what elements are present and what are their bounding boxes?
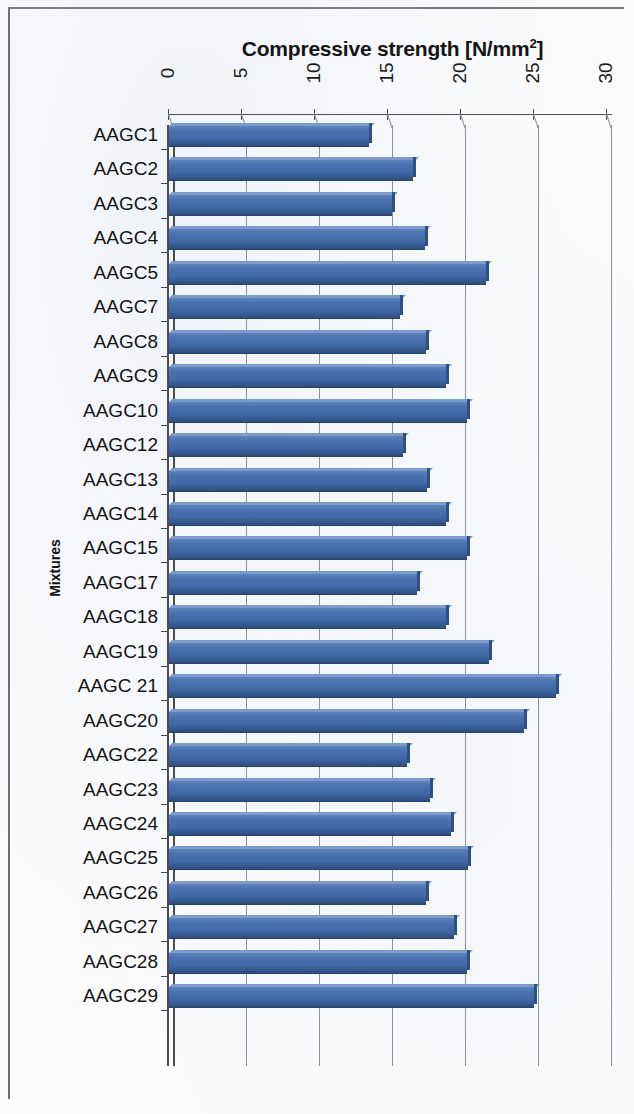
x-axis-tick-label: 5 [230,51,252,95]
category-label: AAGC15 [83,538,158,558]
x-gridline [611,125,612,1066]
bar [169,884,426,904]
y-axis-tick [161,872,169,873]
category-label-layer: AAGC1AAGC2AAGC3AAGC4AAGC5AAGC7AAGC8AAGC9… [0,114,166,1066]
y-axis-tick [161,907,169,908]
category-label: AAGC22 [83,745,158,765]
bar [169,712,524,732]
y-axis-tick [161,183,169,184]
y-axis-tick [161,666,169,667]
x-axis-tick-label: 10 [303,51,325,95]
category-label: AAGC23 [83,780,158,800]
category-label: AAGC14 [83,504,158,524]
category-label: AAGC20 [83,711,158,731]
bar [169,918,454,938]
x-axis-tick-label: 15 [376,51,398,95]
category-label: AAGC29 [83,986,158,1006]
category-label: AAGC12 [83,435,158,455]
bar [169,195,392,215]
category-label: AAGC1 [94,125,158,145]
category-label: AAGC24 [83,814,158,834]
y-axis-tick [161,149,169,150]
bar [169,367,446,387]
bar [169,539,467,559]
category-label: AAGC2 [94,159,158,179]
category-label: AAGC19 [83,642,158,662]
category-label: AAGC28 [83,952,158,972]
y-axis-tick [161,218,169,219]
bar [169,264,486,284]
y-axis-tick [161,597,169,598]
y-axis-tick [161,700,169,701]
category-label: AAGC18 [83,607,158,627]
bar [169,849,468,869]
y-axis-tick [161,804,169,805]
bar [169,471,427,491]
x-axis-tick-label: 25 [522,51,544,95]
y-axis-tick [161,494,169,495]
bar [169,160,413,180]
x-gridline [538,125,539,1066]
category-label: AAGC9 [94,366,158,386]
y-axis-tick [161,252,169,253]
x-axis-tick-label: 0 [157,51,179,95]
category-label: AAGC10 [83,401,158,421]
y-axis-tick [161,287,169,288]
y-axis-tick [161,528,169,529]
y-axis-tick [161,735,169,736]
x-axis-tick-label: 20 [449,51,471,95]
bar [169,643,489,663]
category-label: AAGC3 [94,194,158,214]
y-axis-tick [161,631,169,632]
category-label: AAGC7 [94,297,158,317]
chart-page: Compressive strength [N/mm2] 05101520253… [0,0,634,1114]
bar [169,436,403,456]
category-label: AAGC27 [83,917,158,937]
bar [169,815,451,835]
y-axis-tick [161,838,169,839]
y-axis-tick [161,941,169,942]
y-axis-tick [161,321,169,322]
x-axis-tick-labels: 051015202530 [0,0,634,110]
bar [169,574,417,594]
y-axis-tick [161,390,169,391]
bar [169,229,425,249]
category-label: AAGC5 [94,263,158,283]
bar [169,126,369,146]
y-axis-tick [161,769,169,770]
bar [169,987,534,1007]
y-axis-tick [161,1010,169,1011]
bar [169,608,446,628]
category-label: AAGC13 [83,470,158,490]
plot-area [168,114,612,1066]
y-axis-tick [161,459,169,460]
x-axis-line [168,114,612,115]
category-label: AAGC25 [83,848,158,868]
category-label: AAGC17 [83,573,158,593]
y-axis-tick [161,425,169,426]
y-axis-tick [161,976,169,977]
bar [169,298,400,318]
y-axis-tick [161,356,169,357]
bar [169,953,467,973]
bar [169,505,446,525]
category-label: AAGC26 [83,883,158,903]
bar [169,677,556,697]
bar [169,781,430,801]
bar [169,402,467,422]
y-axis-tick [161,562,169,563]
bar [169,333,426,353]
category-label: AAGC8 [94,332,158,352]
bar [169,746,407,766]
category-label: AAGC 21 [78,676,158,696]
x-axis-tick-label: 30 [595,51,617,95]
category-label: AAGC4 [94,228,158,248]
